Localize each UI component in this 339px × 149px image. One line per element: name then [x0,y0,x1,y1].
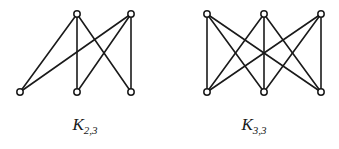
graph-vertex [17,89,23,95]
graph-edge [20,14,131,92]
edges-layer [20,14,321,92]
graph-vertex [128,89,134,95]
graph-vertex [74,89,80,95]
graph-vertex [74,11,80,17]
caption-base-k23: K [72,115,83,134]
graph-vertex [318,89,324,95]
graph-vertex [204,89,210,95]
figure-root: K2,3 K3,3 [0,0,339,149]
graph-vertex [261,89,267,95]
vertices-layer [17,11,324,95]
graph-caption-k23: K2,3 [0,116,170,133]
graph-vertex [128,11,134,17]
graph-caption-k33: K3,3 [169,116,339,133]
graph-vertex [204,11,210,17]
bipartite-graphs-canvas [0,0,339,108]
graph-edge [20,14,77,92]
graph-vertex [261,11,267,17]
caption-base-k33: K [241,115,252,134]
caption-subscript-k33: 3,3 [253,124,267,136]
caption-subscript-k23: 2,3 [84,124,98,136]
graph-vertex [318,11,324,17]
